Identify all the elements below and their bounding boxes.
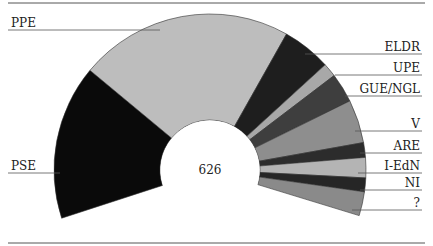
party-label: ? [414,196,420,210]
party-label: PSE [11,159,36,173]
party-label: NI [405,176,421,190]
party-label: ARE [393,139,420,153]
party-label: PPE [11,16,36,30]
party-label: GUE/NGL [359,82,420,96]
party-label: UPE [393,61,420,75]
wedges [54,14,366,220]
party-label: I-EdN [384,159,420,173]
center-total-label: 626 [199,163,222,177]
party-label: V [410,117,420,131]
parliament-donut-chart: PSEPPEELDRUPEGUE/NGLVAREI-EdNNI? 626 [0,0,433,246]
party-label: ELDR [385,40,421,54]
